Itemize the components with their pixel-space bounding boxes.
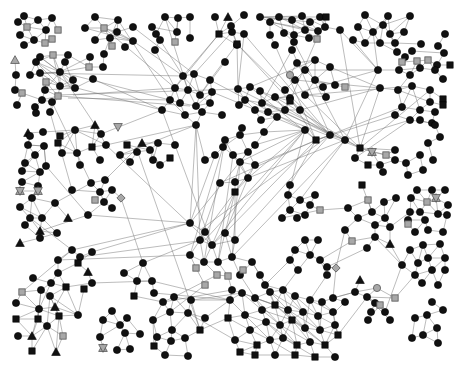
inter-cluster-edge <box>237 44 238 89</box>
node-square-black <box>335 332 341 338</box>
node-circle-black <box>386 316 393 323</box>
node-square-black <box>323 14 329 20</box>
node-square-grey <box>86 64 92 70</box>
node-circle-black <box>48 98 55 105</box>
node-circle-black <box>421 216 428 223</box>
node-circle-black <box>221 229 228 236</box>
node-circle-black <box>278 214 285 221</box>
node-circle-black <box>201 314 208 321</box>
node-circle-black <box>231 236 238 243</box>
node-circle-black <box>251 106 258 113</box>
node-circle-black <box>428 266 435 273</box>
node-square-black <box>287 98 293 104</box>
node-square-grey <box>405 221 411 227</box>
node-square-black <box>232 189 238 195</box>
node-circle-black <box>208 88 215 95</box>
node-circle-black <box>266 336 273 343</box>
node-circle-black <box>166 308 173 315</box>
node-circle-black <box>361 39 368 46</box>
node-circle-grey <box>286 71 293 78</box>
node-circle-black <box>429 156 436 163</box>
node-triangle-black <box>224 13 233 21</box>
node-circle-black <box>416 208 423 215</box>
node-circle-black <box>100 50 107 57</box>
node-circle-black <box>231 178 238 185</box>
node-circle-black <box>54 256 61 263</box>
inter-cluster-edge <box>320 208 348 210</box>
node-circle-black <box>187 296 194 303</box>
node-triangle-black <box>356 276 365 284</box>
node-circle-black <box>288 16 295 23</box>
node-circle-black <box>88 248 95 255</box>
node-circle-black <box>374 66 381 73</box>
node-circle-black <box>354 23 361 30</box>
node-circle-black <box>298 12 305 19</box>
edge <box>47 296 50 326</box>
node-circle-black <box>218 111 225 118</box>
edge <box>65 62 75 88</box>
node-circle-black <box>290 31 297 38</box>
node-square-black <box>13 316 19 322</box>
edge <box>62 130 75 153</box>
node-circle-black <box>386 223 393 230</box>
node-circle-black <box>91 13 98 20</box>
node-circle-black <box>341 298 348 305</box>
node-square-grey <box>342 84 348 90</box>
node-circle-black <box>271 93 278 100</box>
node-circle-black <box>32 58 39 65</box>
node-circle-black <box>198 108 205 115</box>
node-circle-black <box>168 326 175 333</box>
node-circle-black <box>262 318 269 325</box>
node-circle-black <box>108 186 115 193</box>
node-circle-black <box>306 296 313 303</box>
node-circle-black <box>190 70 197 77</box>
node-circle-black <box>54 269 61 276</box>
node-circle-black <box>408 334 415 341</box>
node-circle-black <box>349 36 356 43</box>
node-circle-black <box>221 58 228 65</box>
node-circle-black <box>206 99 213 106</box>
node-circle-black <box>20 12 27 19</box>
node-circle-black <box>244 174 251 181</box>
node-circle-black <box>306 18 313 25</box>
node-circle-black <box>286 181 293 188</box>
node-circle-black <box>258 99 265 106</box>
node-circle-black <box>336 26 343 33</box>
node-square-grey <box>92 197 98 203</box>
node-circle-black <box>246 83 253 90</box>
node-circle-black <box>301 324 308 331</box>
node-circle-black <box>184 86 191 93</box>
node-circle-black <box>192 102 199 109</box>
node-circle-black <box>240 30 247 37</box>
node-circle-black <box>96 156 103 163</box>
node-circle-black <box>323 271 330 278</box>
node-circle-black <box>87 179 94 186</box>
node-square-grey <box>349 238 355 244</box>
node-circle-black <box>200 258 207 265</box>
node-square-grey <box>43 79 49 85</box>
node-circle-black <box>108 204 115 211</box>
node-square-black <box>312 354 318 360</box>
node-circle-black <box>166 96 173 103</box>
node-circle-black <box>88 279 95 286</box>
node-triangle-black <box>386 240 395 248</box>
node-circle-black <box>176 99 183 106</box>
node-circle-black <box>406 71 413 78</box>
node-diamond-grey <box>332 264 340 272</box>
node-circle-black <box>236 131 243 138</box>
node-square-grey <box>425 57 431 63</box>
node-circle-black <box>431 66 438 73</box>
node-square-black <box>89 144 95 150</box>
node-circle-black <box>368 208 375 215</box>
node-circle-black <box>321 23 328 30</box>
edge <box>60 67 89 72</box>
node-circle-black <box>439 306 446 313</box>
node-square-grey <box>365 197 371 203</box>
node-circle-black <box>416 116 423 123</box>
node-circle-black <box>276 321 283 328</box>
node-circle-black <box>301 66 308 73</box>
inter-cluster-edge <box>104 28 175 88</box>
node-circle-black <box>296 106 303 113</box>
node-circle-black <box>26 71 33 78</box>
node-square-black <box>292 352 298 358</box>
